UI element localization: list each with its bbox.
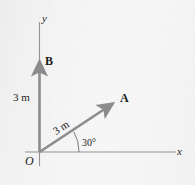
vector-b-label: B	[45, 55, 53, 67]
origin-label: O	[25, 155, 34, 167]
vector-diagram-figure: x y O B 3 m A 3 m 30°	[0, 0, 195, 185]
x-axis-label: x	[177, 146, 182, 157]
angle-arc	[74, 132, 79, 152]
y-axis-label: y	[42, 13, 47, 24]
angle-label: 30°	[82, 138, 96, 148]
vector-a-label: A	[120, 92, 129, 104]
vector-b-magnitude-label: 3 m	[13, 92, 30, 103]
